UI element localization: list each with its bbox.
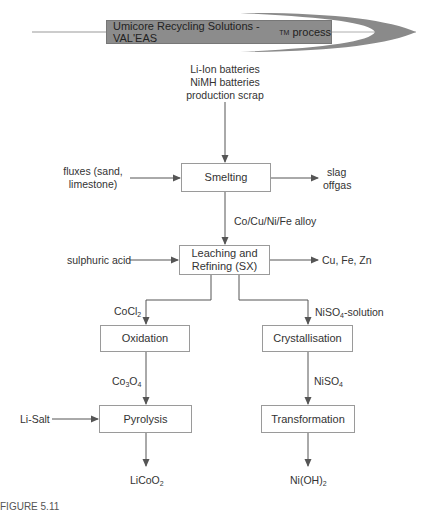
co3o4-sub2: 4 xyxy=(138,381,142,388)
feed-materials: Li-Ion batteries NiMH batteries producti… xyxy=(172,63,278,102)
transformation-box: Transformation xyxy=(261,405,355,433)
cu-fe-zn-output: Cu, Fe, Zn xyxy=(322,254,372,267)
co3o4-stream-label: Co3O4 xyxy=(112,375,141,391)
smelting-label: Smelting xyxy=(205,171,248,184)
co3o4-b: O xyxy=(129,375,137,387)
banner-suffix: process xyxy=(289,26,331,38)
offgas-label: offgas xyxy=(323,179,351,192)
crystallisation-box: Crystallisation xyxy=(262,325,353,352)
leaching-label-line-1: Leaching and xyxy=(191,247,257,260)
fluxes-line-1: fluxes (sand, xyxy=(55,165,131,178)
crystallisation-label: Crystallisation xyxy=(273,332,341,345)
li-salt-input: Li-Salt xyxy=(20,413,50,426)
leaching-label-line-2: Refining (SX) xyxy=(192,260,257,273)
pyrolysis-label: Pyrolysis xyxy=(123,413,167,426)
sulphuric-acid-input: sulphuric acid xyxy=(67,254,131,267)
trademark-mark: TM xyxy=(279,29,289,36)
niso4-solution-stream-label: NiSO4-solution xyxy=(315,306,384,322)
licoo2-sub: 2 xyxy=(160,480,164,487)
fluxes-input: fluxes (sand, limestone) xyxy=(55,165,131,191)
pyrolysis-box: Pyrolysis xyxy=(99,405,192,433)
nioh2-product: Ni(OH)2 xyxy=(290,474,327,490)
licoo2-base: LiCoO xyxy=(130,474,160,486)
cocl2-stream-label: CoCl2 xyxy=(114,305,141,321)
niso4sol-base: NiSO xyxy=(315,306,340,318)
smelting-box: Smelting xyxy=(181,163,271,192)
feed-line-2: NiMH batteries xyxy=(172,76,278,89)
nioh2-base: Ni(OH) xyxy=(290,474,323,486)
co3o4-a: Co xyxy=(112,375,125,387)
feed-line-1: Li-Ion batteries xyxy=(172,63,278,76)
niso4-sub: 4 xyxy=(339,381,343,388)
oxidation-box: Oxidation xyxy=(100,325,190,352)
cocl2-sub: 2 xyxy=(137,311,141,318)
slag-offgas-output: slag offgas xyxy=(323,166,351,192)
niso4-base: NiSO xyxy=(314,375,339,387)
licoo2-product: LiCoO2 xyxy=(130,474,164,490)
fluxes-line-2: limestone) xyxy=(55,178,131,191)
feed-line-3: production scrap xyxy=(172,89,278,102)
process-banner: Umicore Recycling Solutions - VAL'EASTM … xyxy=(106,20,332,44)
niso4sol-suffix: -solution xyxy=(344,306,384,318)
banner-title: Umicore Recycling Solutions - VAL'EAS xyxy=(113,20,279,44)
figure-caption-truncated: FIGURE 5.11 xyxy=(0,501,59,512)
leaching-refining-box: Leaching and Refining (SX) xyxy=(179,245,270,275)
alloy-stream-label: Co/Cu/Ni/Fe alloy xyxy=(234,215,316,228)
cocl2-base: CoCl xyxy=(114,305,137,317)
niso4-stream-label: NiSO4 xyxy=(314,375,343,391)
slag-label: slag xyxy=(323,166,351,179)
transformation-label: Transformation xyxy=(271,413,345,426)
oxidation-label: Oxidation xyxy=(122,332,168,345)
nioh2-sub: 2 xyxy=(323,480,327,487)
